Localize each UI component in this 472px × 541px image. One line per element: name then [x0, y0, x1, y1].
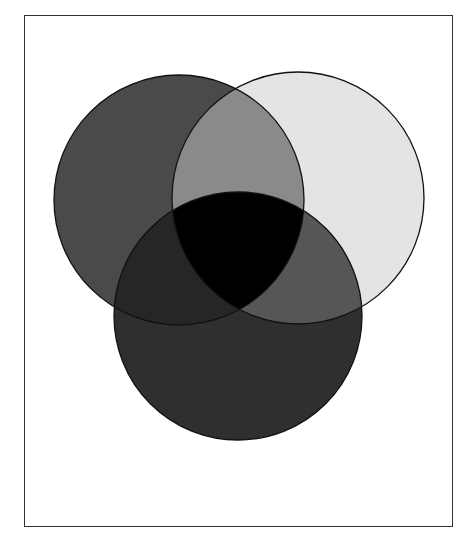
venn-diagram: [0, 0, 472, 541]
